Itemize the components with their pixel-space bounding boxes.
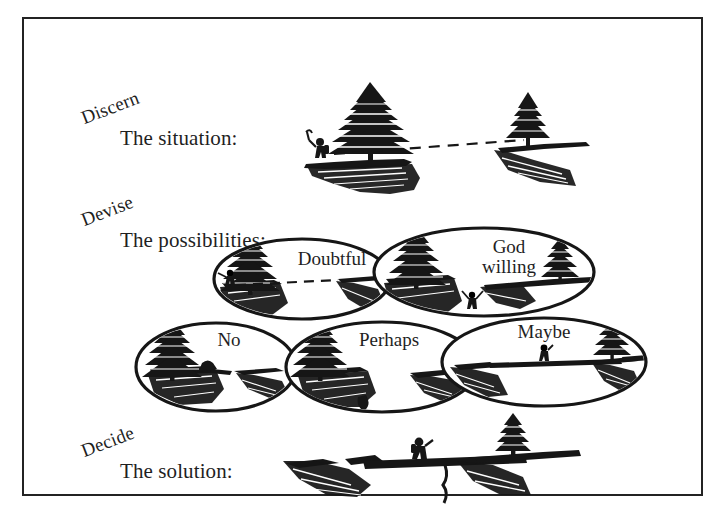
possibility-label-no: No — [206, 330, 252, 350]
stage-subtitle-discern: The situation: — [120, 126, 237, 151]
illustration-the-situation — [294, 74, 594, 194]
stage-label-discern: Discern — [78, 87, 142, 129]
possibility-label-perhaps: Perhaps — [344, 330, 434, 350]
possibility-label-maybe: Maybe — [504, 322, 584, 342]
figure-root: Discern The situation: — [0, 0, 720, 517]
stage-subtitle-devise: The possibilities: — [120, 228, 266, 253]
illustration-the-solution — [279, 411, 599, 506]
possibility-label-doubtful: Doubtful — [282, 249, 382, 269]
possibility-label-god-willing: God willing — [466, 237, 552, 277]
page-frame: Discern The situation: — [22, 17, 703, 496]
stage-label-decide: Decide — [78, 422, 137, 462]
stage-subtitle-decide: The solution: — [120, 459, 233, 484]
stage-label-devise: Devise — [78, 191, 136, 231]
